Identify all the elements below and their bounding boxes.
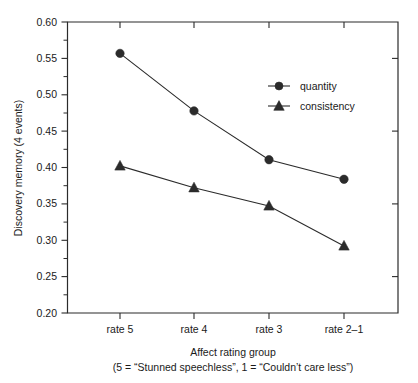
quantity-data-point: [340, 175, 348, 183]
y-tick-label: 0.25: [37, 270, 58, 282]
y-tick-label: 0.55: [37, 52, 58, 64]
quantity-data-point: [190, 107, 198, 115]
legend-label-quantity: quantity: [300, 80, 338, 92]
y-tick-label: 0.50: [37, 88, 58, 100]
chart-figure: 0.60 0.55 0.50 0.45 0.40 0.35 0.30 0.25 …: [0, 0, 418, 383]
line-chart: 0.60 0.55 0.50 0.45 0.40 0.35 0.30 0.25 …: [0, 0, 418, 383]
x-tick-label: rate 4: [181, 323, 208, 335]
y-axis-ticks: [62, 22, 68, 313]
legend-entry-consistency: consistency: [268, 100, 356, 112]
y-tick-label: 0.30: [37, 234, 58, 246]
series-consistency: [115, 160, 349, 250]
x-tick-label: rate 5: [107, 323, 134, 335]
series-quantity: [116, 49, 348, 183]
consistency-line: [120, 166, 344, 246]
x-axis-ticks: [120, 313, 344, 319]
x-axis-subtitle: (5 = “Stunned speechless”, 1 = “Couldn’t…: [113, 361, 353, 373]
consistency-data-point: [339, 240, 349, 250]
y-axis-title: Discovery memory (4 events): [12, 100, 24, 237]
y-axis-tick-labels: 0.60 0.55 0.50 0.45 0.40 0.35 0.30 0.25 …: [37, 16, 58, 319]
chart-legend: quantity consistency: [268, 80, 356, 112]
y-tick-label: 0.60: [37, 16, 58, 28]
y-tick-label: 0.45: [37, 125, 58, 137]
x-axis-title: Affect rating group: [190, 346, 276, 358]
legend-entry-quantity: quantity: [268, 80, 338, 92]
right-axis-ticks: [392, 58, 398, 276]
quantity-data-point: [265, 156, 273, 164]
quantity-line: [120, 53, 344, 179]
x-tick-label: rate 3: [256, 323, 283, 335]
y-tick-label: 0.20: [37, 307, 58, 319]
x-tick-label: rate 2–1: [325, 323, 364, 335]
legend-label-consistency: consistency: [300, 100, 356, 112]
quantity-data-point: [116, 49, 124, 57]
circle-marker: [275, 82, 283, 90]
y-tick-label: 0.35: [37, 197, 58, 209]
top-axis-ticks: [120, 22, 344, 28]
y-tick-label: 0.40: [37, 161, 58, 173]
x-axis-tick-labels: rate 5 rate 4 rate 3 rate 2–1: [107, 323, 364, 335]
consistency-data-point: [115, 160, 125, 170]
